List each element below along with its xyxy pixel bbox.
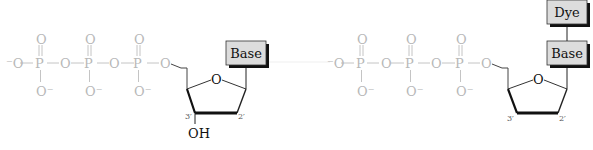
- dideoxyribose-ring: O 3′ 2′: [492, 64, 567, 123]
- triphosphate-chain: ⁻O P O P O P O O O O O⁻ O⁻ O⁻: [327, 32, 492, 99]
- dye-box: Dye: [547, 0, 590, 27]
- terminal-oxygen: ⁻O: [6, 56, 24, 71]
- double-oxygen-3: O: [134, 32, 145, 47]
- nucleotide-diagram: ⁻O P O P O P O O O O O⁻ O⁻ O⁻: [0, 0, 593, 150]
- bridge-oxygen-1: O: [60, 56, 71, 71]
- triphosphate-chain: ⁻O P O P O P O O O O O⁻ O⁻ O⁻: [6, 32, 171, 99]
- hydroxyl-group: OH: [188, 126, 210, 141]
- phosphorus-2: P: [84, 56, 93, 71]
- double-oxygen-3: O: [456, 32, 467, 47]
- terminal-oxygen: ⁻O: [327, 56, 345, 71]
- charged-oxygen-2: O⁻: [85, 84, 103, 99]
- double-oxygen-2: O: [85, 32, 96, 47]
- carbon-3-label: 3′: [185, 112, 192, 121]
- molecule-ddntp: ⁻O P O P O P O O O O O⁻ O⁻ O⁻ O 3′: [327, 0, 590, 123]
- charged-oxygen-3: O⁻: [456, 84, 474, 99]
- charged-oxygen-1: O⁻: [36, 84, 54, 99]
- base-label: Base: [230, 46, 262, 61]
- charged-oxygen-1: O⁻: [357, 84, 375, 99]
- phosphorus-2: P: [405, 56, 414, 71]
- double-oxygen-1: O: [36, 32, 47, 47]
- base-box: Base: [226, 41, 269, 68]
- charged-oxygen-2: O⁻: [406, 84, 424, 99]
- bridge-oxygen-2: O: [109, 56, 120, 71]
- phosphorus-3: P: [455, 56, 464, 71]
- bridge-oxygen-1: O: [381, 56, 392, 71]
- carbon-2-label: 2′: [238, 112, 245, 121]
- phosphorus-1: P: [356, 56, 365, 71]
- bridge-oxygen-3: O: [160, 56, 171, 71]
- phosphorus-3: P: [133, 56, 142, 71]
- deoxyribose-ring: O 3′ 2′ OH: [171, 64, 246, 141]
- base-box: Base: [547, 41, 590, 68]
- carbon-2-label: 2′: [559, 114, 566, 123]
- carbon-3-label: 3′: [507, 114, 514, 123]
- dye-label: Dye: [554, 5, 580, 20]
- ring-oxygen: O: [211, 72, 222, 87]
- bridge-oxygen-2: O: [431, 56, 442, 71]
- base-label: Base: [551, 46, 583, 61]
- charged-oxygen-3: O⁻: [134, 84, 152, 99]
- phosphorus-1: P: [35, 56, 44, 71]
- bridge-oxygen-3: O: [481, 56, 492, 71]
- double-oxygen-1: O: [357, 32, 368, 47]
- double-oxygen-2: O: [406, 32, 417, 47]
- ring-oxygen: O: [533, 72, 544, 87]
- molecule-dntp: ⁻O P O P O P O O O O O⁻ O⁻ O⁻: [6, 32, 269, 141]
